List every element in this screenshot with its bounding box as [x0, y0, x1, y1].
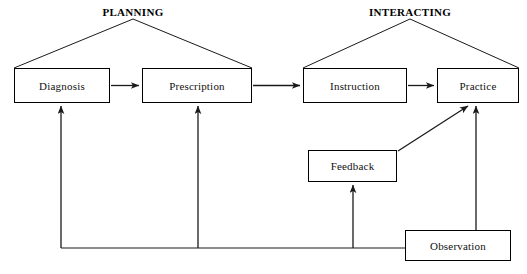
- node-instruction[interactable]: Instruction: [303, 68, 407, 103]
- node-label-diagnosis: Diagnosis: [39, 80, 85, 92]
- connector-planning-bracket-left: [14, 19, 133, 68]
- node-label-prescription: Prescription: [169, 80, 225, 92]
- group-label-planning: PLANNING: [102, 6, 163, 18]
- connector-interacting-bracket-left: [303, 19, 410, 68]
- connector-planning-bracket-right: [133, 19, 252, 68]
- node-label-instruction: Instruction: [330, 80, 380, 92]
- node-label-feedback: Feedback: [331, 160, 375, 172]
- diagram-canvas: PLANNING INTERACTING Diagnosis Prescript…: [0, 0, 527, 274]
- group-label-interacting: INTERACTING: [369, 6, 451, 18]
- node-practice[interactable]: Practice: [437, 68, 519, 103]
- node-label-practice: Practice: [459, 80, 496, 92]
- node-feedback[interactable]: Feedback: [308, 150, 397, 182]
- node-observation[interactable]: Observation: [405, 230, 511, 261]
- connector-interacting-bracket-right: [410, 19, 519, 68]
- node-diagnosis[interactable]: Diagnosis: [14, 68, 110, 103]
- node-label-observation: Observation: [430, 240, 486, 252]
- connector-feedback-to-practice: [398, 106, 468, 151]
- node-prescription[interactable]: Prescription: [142, 68, 252, 103]
